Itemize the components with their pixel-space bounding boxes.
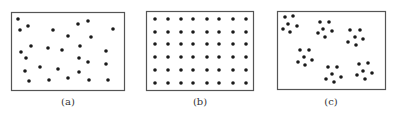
dot <box>217 30 221 34</box>
dot <box>307 48 311 52</box>
dot <box>205 81 209 85</box>
dot <box>179 81 183 85</box>
dot <box>353 35 357 39</box>
panel-b-uniform <box>147 12 254 91</box>
dot <box>231 17 235 21</box>
dot <box>191 68 195 72</box>
dot <box>326 65 330 69</box>
dot <box>191 81 195 85</box>
dot <box>321 27 325 31</box>
dot <box>217 42 221 46</box>
dot <box>153 42 157 46</box>
dot <box>89 35 93 39</box>
dot <box>244 68 248 72</box>
panel-c-clustered <box>278 12 386 90</box>
dot <box>348 28 352 32</box>
dot <box>346 40 350 44</box>
dot <box>205 68 209 72</box>
dot <box>357 62 361 66</box>
dot <box>205 55 209 59</box>
dot <box>296 60 300 64</box>
dot <box>303 63 307 67</box>
dot <box>153 17 157 21</box>
dot <box>166 17 170 21</box>
dot <box>38 65 42 69</box>
caption-a: (a) <box>48 96 88 107</box>
dot <box>217 17 221 21</box>
dot <box>191 30 195 34</box>
panel-frame <box>278 12 386 90</box>
dot <box>27 79 31 83</box>
dot <box>281 27 285 31</box>
dot <box>363 77 367 81</box>
dot <box>60 48 64 52</box>
dot <box>323 35 327 39</box>
dot <box>111 27 115 31</box>
dot <box>179 17 183 21</box>
dot <box>153 81 157 85</box>
dot <box>358 28 362 32</box>
dot <box>231 81 235 85</box>
dot <box>370 71 374 75</box>
dot <box>86 19 90 23</box>
panel-a-random <box>12 13 125 91</box>
dot <box>24 56 28 60</box>
dot <box>153 55 157 59</box>
dot <box>318 20 322 24</box>
dot <box>244 81 248 85</box>
dot <box>205 17 209 21</box>
dot <box>355 73 359 77</box>
dot <box>310 58 314 62</box>
dot <box>76 22 80 26</box>
dot <box>217 81 221 85</box>
dot <box>77 70 81 74</box>
dot <box>191 42 195 46</box>
dot <box>77 56 81 60</box>
dot <box>19 50 23 54</box>
dot <box>106 78 110 82</box>
dot <box>166 42 170 46</box>
dot <box>16 17 20 21</box>
dot <box>18 28 22 32</box>
caption-b: (b) <box>180 96 220 107</box>
dot <box>316 31 320 35</box>
dot <box>23 69 27 73</box>
dot <box>339 75 343 79</box>
dot <box>288 30 292 34</box>
dot <box>231 42 235 46</box>
dot <box>56 67 60 71</box>
dot <box>295 24 299 28</box>
dot <box>153 30 157 34</box>
dot <box>327 20 331 24</box>
dot <box>302 55 306 59</box>
dot <box>47 78 51 82</box>
dot <box>166 68 170 72</box>
dot <box>179 42 183 46</box>
dot <box>191 55 195 59</box>
dot <box>29 44 33 48</box>
dot <box>330 29 334 33</box>
dot <box>335 65 339 69</box>
dot <box>51 28 55 32</box>
dot <box>361 37 365 41</box>
caption-c: (c) <box>311 96 351 107</box>
dot <box>191 17 195 21</box>
dot <box>244 42 248 46</box>
dot <box>205 42 209 46</box>
dot <box>244 17 248 21</box>
dot <box>46 46 50 50</box>
dot <box>166 55 170 59</box>
dot <box>166 81 170 85</box>
dot <box>330 72 334 76</box>
dot <box>179 68 183 72</box>
dot <box>26 24 30 28</box>
dot <box>153 68 157 72</box>
dot <box>286 22 290 26</box>
dot <box>78 44 82 48</box>
dot <box>324 77 328 81</box>
dot <box>104 62 108 66</box>
dot <box>244 30 248 34</box>
dot <box>283 15 287 19</box>
dot <box>231 68 235 72</box>
dot <box>361 69 365 73</box>
